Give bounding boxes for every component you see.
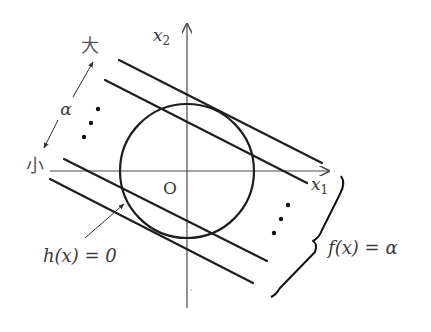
- objective-level-label: f(x) = α: [326, 237, 398, 258]
- large-label: 大: [81, 35, 99, 56]
- x1-axis-label: x1: [311, 174, 328, 197]
- alpha-label: α: [60, 99, 72, 119]
- level-set-diagram: 大 小 α x2 x1 O h(x) = 0 f(x) = α: [0, 0, 431, 332]
- level-line-second: [105, 80, 307, 183]
- ellipsis-dots-left: [82, 107, 100, 139]
- constraint-label: h(x) = 0: [43, 245, 117, 266]
- level-line-top: [119, 60, 322, 163]
- small-label: 小: [26, 155, 44, 176]
- artifact-dot: [190, 289, 191, 290]
- x2-axis-label: x2: [153, 25, 170, 48]
- ellipsis-dots-right: [272, 203, 290, 235]
- constraint-pointer-arrow: [85, 204, 124, 238]
- alpha-arrow-up: [73, 62, 93, 97]
- level-line-bottom: [50, 179, 253, 283]
- alpha-arrow-down: [44, 120, 58, 148]
- origin-label: O: [163, 178, 177, 198]
